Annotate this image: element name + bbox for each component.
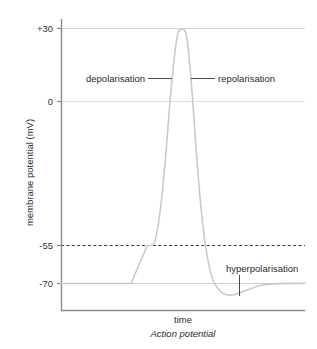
action-potential-figure: +30 0 -55 -70 membrane potential (mV) ti… bbox=[0, 0, 317, 349]
x-axis-title: time bbox=[61, 314, 305, 325]
annotation-hyperpolarisation: hyperpolarisation bbox=[226, 263, 298, 274]
action-potential-plot bbox=[0, 0, 317, 349]
y-axis-title: membrane potential (mV) bbox=[24, 83, 35, 263]
annotation-repolarisation: repolarisation bbox=[218, 73, 275, 84]
y-tick-label-minus70: -70 bbox=[8, 279, 53, 289]
action-potential-curve bbox=[61, 29, 305, 295]
figure-caption: Action potential bbox=[61, 328, 305, 339]
y-tick-label-plus30: +30 bbox=[8, 24, 53, 34]
annotation-depolarisation: depolarisation bbox=[86, 73, 145, 84]
